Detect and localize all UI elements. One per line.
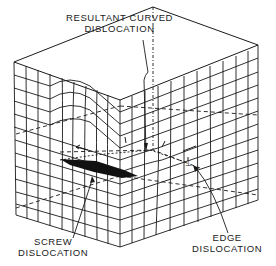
resultant-leader [143,40,148,152]
edge-label-line1: EDGE [192,232,262,243]
resultant-label-line2: DISLOCATION [66,23,173,34]
right-face-horizontal-lines [120,58,258,234]
edge-symbol: ⊥ [185,159,192,168]
resultant-curved-dislocation-label: RESULTANT CURVED DISLOCATION [66,12,173,34]
screw-label-line1: SCREW [18,236,88,247]
right-face-outline [120,45,258,247]
screw-label-line2: DISLOCATION [18,247,88,258]
dislocation-diagram: ⊥ RESULTANT CURVED DISLOCATION SCREW DIS… [0,0,276,266]
edge-dislocation-label: EDGE DISLOCATION [192,232,262,254]
screw-arrowhead [90,176,95,183]
right-face-vertical-lines [132,51,248,243]
screw-dislocation-label: SCREW DISLOCATION [18,236,88,258]
slipped-region [60,159,138,178]
resultant-label-line1: RESULTANT CURVED [66,12,173,23]
crystal-block-drawing: ⊥ [0,0,276,266]
screw-leader [73,180,92,238]
edge-label-line2: DISLOCATION [192,243,262,254]
